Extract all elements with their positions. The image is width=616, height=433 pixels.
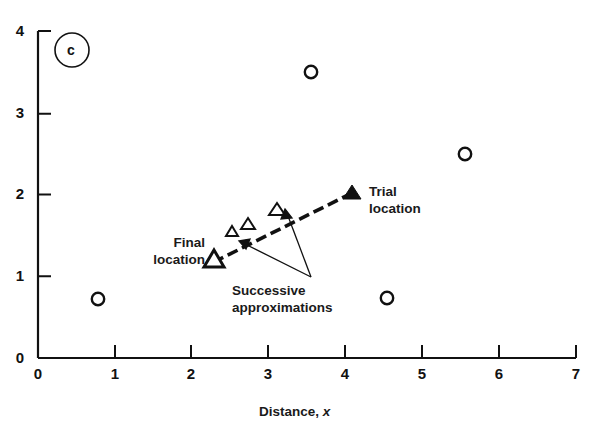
y-tick-label: 2 <box>10 185 30 202</box>
y-tick-label: 4 <box>10 22 30 39</box>
approximation-marker <box>226 226 238 236</box>
search-path-dashed-line <box>218 193 352 260</box>
x-axis-title-text: Distance, <box>259 404 319 419</box>
x-tick-label: 2 <box>181 365 201 382</box>
data-point-circle <box>381 292 393 304</box>
x-tick-label: 1 <box>105 365 125 382</box>
x-tick-label: 4 <box>335 365 355 382</box>
y-tick-label: 3 <box>10 104 30 121</box>
scatter-plot-figure <box>0 0 616 433</box>
trial-location-label: Trial location <box>369 184 421 218</box>
data-point-circle <box>459 148 471 160</box>
x-tick-label: 7 <box>566 365 586 382</box>
successive-approximations-label: Successive approximations <box>232 283 333 317</box>
x-tick-label: 6 <box>489 365 509 382</box>
approximation-marker <box>269 203 285 215</box>
approximation-marker <box>241 218 255 229</box>
y-axis-ticks <box>38 31 51 276</box>
x-axis-title-variable: x <box>323 404 331 419</box>
y-tick-label: 1 <box>10 267 30 284</box>
x-tick-label: 0 <box>28 365 48 382</box>
trial-location-marker <box>343 185 361 199</box>
data-point-circle <box>305 66 317 78</box>
x-axis-ticks <box>115 345 576 358</box>
x-tick-label: 3 <box>258 365 278 382</box>
final-location-label: Final location <box>95 235 205 269</box>
panel-label-c: c <box>67 42 75 58</box>
data-point-circle <box>92 293 104 305</box>
x-tick-label: 5 <box>412 365 432 382</box>
x-axis-title: Distance, x <box>259 404 330 419</box>
y-tick-label: 0 <box>10 349 30 366</box>
